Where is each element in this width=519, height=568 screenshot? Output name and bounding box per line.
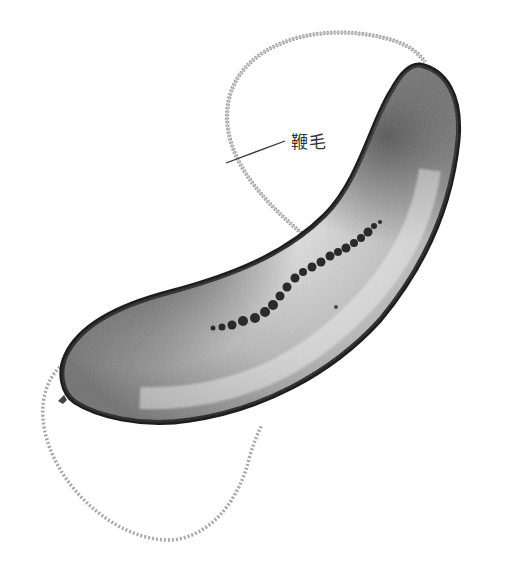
bacterium-figure [0,0,519,568]
cell-body [58,65,459,423]
flagellum-label: 鞭毛 [291,128,327,153]
